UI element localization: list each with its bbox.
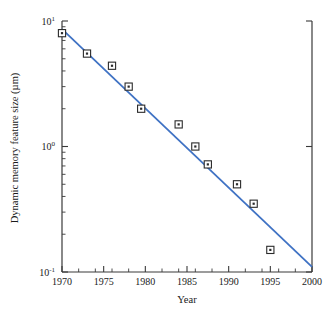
data-point-center-dot [194,145,196,147]
data-point-center-dot [128,86,130,88]
data-point [83,50,90,57]
data-point [267,246,274,253]
y-tick-label-exponent: 0 [52,140,56,148]
data-point [204,161,211,168]
x-tick-label: 1980 [135,276,155,287]
y-tick-label-exponent: 1 [52,15,56,23]
data-point [250,200,257,207]
x-tick-label: 1990 [219,276,239,287]
data-point-center-dot [269,249,271,251]
data-point-center-dot [253,203,255,205]
data-point-center-dot [236,183,238,185]
data-point-center-dot [178,123,180,125]
data-point-center-dot [111,65,113,67]
x-tick-label: 1995 [260,276,280,287]
y-tick-label-exponent: -1 [49,266,55,274]
data-point-center-dot [86,52,88,54]
x-tick-label: 1985 [177,276,197,287]
data-point-center-dot [140,108,142,110]
y-axis-title: Dynamic memory feature size (µm) [9,72,21,223]
x-tick-label: 2000 [302,276,322,287]
data-point [125,83,132,90]
data-point-center-dot [207,163,209,165]
x-tick-label: 1975 [94,276,114,287]
x-tick-label: 1970 [52,276,72,287]
data-point [192,143,199,150]
data-point [233,181,240,188]
x-axis-title: Year [177,294,197,305]
chart-svg: 10-1100101 1970197519801985199019952000 … [0,0,335,318]
data-point [58,30,65,37]
data-point [175,121,182,128]
data-point-center-dot [61,32,63,34]
data-point [108,62,115,69]
chart-figure: 10-1100101 1970197519801985199019952000 … [0,0,335,318]
data-point [138,105,145,112]
